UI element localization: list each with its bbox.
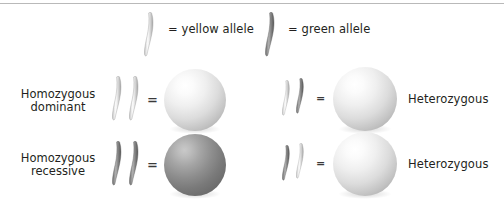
row-1-right-label: Heterozygous [408,93,488,106]
row-2-right-result-sphere-light [333,132,397,196]
row-1-right-equals-sign: = [316,93,325,104]
row-1-left-result-sphere-light [164,69,226,131]
row-1-left-allele-1-light [112,76,123,121]
row-1-left-label-line2: dominant [8,101,108,114]
row-2-left-allele-2-dark [129,141,140,186]
row-1-left-label-line1: Homozygous [8,88,108,101]
row-2-right-equals-sign: = [316,158,325,169]
row-2-left-result-sphere-dark [164,134,226,196]
row-1-right-allele-1-light [282,80,291,116]
row-2-left-label: Homozygous recessive [8,152,108,178]
row-2-left-allele-1-dark [112,141,123,186]
legend-yellow-allele-label: = yellow allele [168,23,254,36]
legend-yellow-allele-icon [144,12,155,57]
row-2-right-allele-1-dark [282,145,291,181]
row-2-right-allele-2-light [296,143,305,179]
row-2-right-label: Heterozygous [408,158,488,171]
row-1-left-equals-sign: = [147,93,158,106]
row-1-right-result-sphere-light [333,67,397,131]
legend-green-allele-icon [265,12,276,57]
row-2-left-label-line1: Homozygous [8,152,108,165]
top-divider-rule [0,3,504,4]
row-1-left-allele-2-light [129,76,140,121]
row-2-left-label-line2: recessive [8,165,108,178]
genetics-diagram: = yellow allele = green allele Homozygou… [0,0,504,206]
legend-green-allele-label: = green allele [288,23,370,36]
row-1-right-allele-2-dark [296,78,305,114]
row-2-left-equals-sign: = [147,158,158,171]
row-1-left-label: Homozygous dominant [8,88,108,114]
